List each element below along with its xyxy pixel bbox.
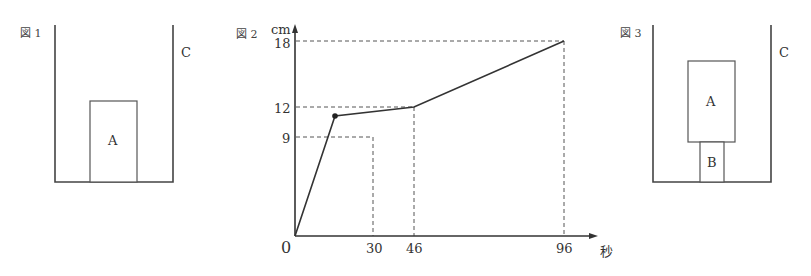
container-c-label-fig3: C	[779, 45, 789, 60]
block-b-label-fig3: B	[707, 155, 717, 170]
figure3-drawing	[0, 0, 811, 276]
block-a-label-fig3: A	[706, 94, 715, 109]
